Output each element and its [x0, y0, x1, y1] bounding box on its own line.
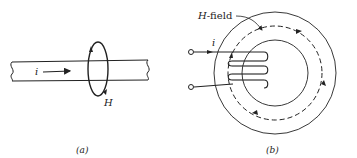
coil-winding [189, 50, 268, 90]
h-field-loop [88, 42, 108, 96]
h-field-label: H-field [197, 10, 233, 21]
current-label: i [35, 66, 38, 77]
h-field-label: H [103, 97, 113, 108]
current-arrow [43, 71, 70, 72]
figure-b: H-field i (b) [189, 10, 337, 155]
figure-a: i H (a) [11, 42, 149, 155]
caption-a: (a) [76, 145, 89, 155]
toroid [214, 12, 336, 134]
caption-b: (b) [266, 145, 279, 155]
diagram-canvas: i H (a) H-field [0, 0, 357, 158]
wire [11, 60, 149, 81]
current-label: i [212, 37, 215, 48]
